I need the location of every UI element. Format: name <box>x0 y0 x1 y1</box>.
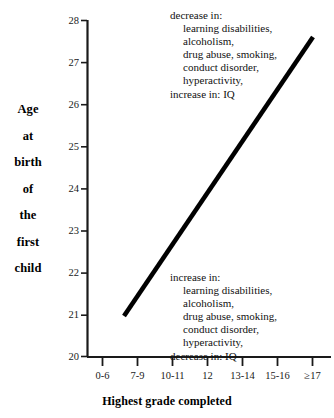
annotation-top-line: alcoholism, <box>170 35 277 48</box>
x-axis-title: Highest grade completed <box>0 394 334 409</box>
annotation-bottom: increase in: learning disabilities, alco… <box>170 271 277 363</box>
x-tick-label: 7-9 <box>131 370 145 381</box>
x-tick-label: 10-11 <box>160 370 184 381</box>
annotation-top-line: increase in: IQ <box>170 88 277 101</box>
x-tick-label: 12 <box>202 370 213 381</box>
annotation-bottom-line: decrease in: IQ <box>170 350 277 363</box>
x-tick-label: 13-14 <box>230 370 255 381</box>
x-tick-label: ≥17 <box>304 370 320 381</box>
plot-area <box>0 0 334 418</box>
annotation-bottom-line: conduct disorder, <box>170 323 277 336</box>
annotation-top: decrease in: learning disabilities, alco… <box>170 9 277 101</box>
annotation-bottom-line: drug abuse, smoking, <box>170 310 277 323</box>
chart-figure: Age at birth of the first child 28 27 26… <box>0 0 334 418</box>
annotation-top-line: decrease in: <box>170 9 277 22</box>
annotation-bottom-line: learning disabilities, <box>170 284 277 297</box>
y-axis-ticks <box>81 21 87 357</box>
annotation-top-line: hyperactivity, <box>170 74 277 87</box>
annotation-top-line: learning disabilities, <box>170 22 277 35</box>
annotation-bottom-line: alcoholism, <box>170 297 277 310</box>
annotation-top-line: drug abuse, smoking, <box>170 48 277 61</box>
x-tick-label: 15-16 <box>265 370 290 381</box>
annotation-bottom-line: hyperactivity, <box>170 336 277 349</box>
x-tick-label: 0-6 <box>96 370 110 381</box>
annotation-bottom-line: increase in: <box>170 271 277 284</box>
annotation-top-line: conduct disorder, <box>170 61 277 74</box>
